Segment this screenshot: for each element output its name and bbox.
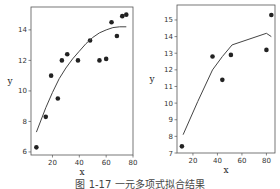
data-point: [120, 14, 125, 19]
x-tick-label: 20: [48, 159, 57, 167]
data-point: [34, 145, 39, 150]
plot-frame: [177, 5, 275, 153]
data-point: [180, 144, 185, 149]
y-tick-label: 15: [164, 16, 173, 24]
data-point: [76, 58, 81, 63]
y-tick-label: 9: [169, 116, 173, 124]
y-tick-label: 14: [18, 26, 27, 34]
y-tick-label: 8: [169, 133, 173, 141]
data-point: [264, 48, 269, 53]
figure-canvas: 2040608068101214xy 204060807891011121314…: [0, 0, 280, 189]
y-tick-label: 6: [23, 148, 28, 156]
data-point: [109, 20, 114, 25]
x-tick-label: 20: [188, 157, 197, 165]
data-point: [269, 13, 274, 18]
x-tick-label: 60: [102, 159, 111, 167]
data-point: [229, 53, 234, 58]
x-tick-label: 40: [213, 157, 222, 165]
y-tick-label: 10: [18, 87, 27, 95]
x-axis-label: x: [223, 165, 228, 175]
data-point: [220, 78, 225, 83]
data-point: [56, 96, 61, 101]
right-chart: 20406080789101112131415xy: [148, 5, 275, 175]
figure-caption: 图 1-17 一元多项式拟合结果: [0, 176, 280, 189]
data-point: [115, 34, 120, 39]
plot-frame: [31, 7, 133, 155]
data-point: [49, 73, 54, 78]
y-tick-label: 11: [164, 83, 173, 91]
data-point: [210, 54, 215, 59]
left-chart: 2040608068101214xy: [6, 7, 137, 177]
data-point: [60, 58, 65, 63]
y-tick-label: 10: [164, 100, 173, 108]
data-point: [43, 115, 48, 120]
y-axis-label: y: [6, 76, 13, 86]
y-tick-label: 14: [164, 33, 173, 41]
data-point: [65, 52, 70, 57]
y-tick-label: 13: [164, 50, 173, 58]
y-tick-label: 8: [23, 118, 27, 126]
y-tick-label: 12: [18, 57, 27, 65]
y-tick-label: 7: [169, 150, 173, 158]
x-tick-label: 60: [237, 157, 246, 165]
data-point: [124, 12, 129, 17]
data-point: [104, 57, 109, 62]
x-tick-label: 80: [129, 159, 138, 167]
x-tick-label: 40: [75, 159, 84, 167]
data-point: [97, 58, 102, 63]
x-tick-label: 80: [262, 157, 271, 165]
y-tick-label: 12: [164, 66, 173, 74]
y-axis-label: y: [148, 74, 155, 84]
